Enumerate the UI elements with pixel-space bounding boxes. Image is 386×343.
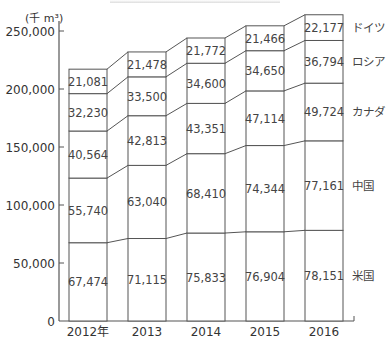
legend-label-russia: ロシア xyxy=(352,55,385,69)
x-tick-label: 2016 xyxy=(309,325,340,339)
connector-line xyxy=(225,26,246,38)
value-label: 34,650 xyxy=(245,64,285,78)
x-tick-label: 2015 xyxy=(250,325,281,339)
connector-line xyxy=(284,230,305,231)
value-label: 75,833 xyxy=(186,271,226,285)
value-label: 21,466 xyxy=(245,32,285,46)
value-label: 22,177 xyxy=(304,21,344,35)
y-tick-label: 100,000 xyxy=(5,199,55,213)
value-label: 34,600 xyxy=(186,77,226,91)
value-label: 43,351 xyxy=(186,122,226,136)
connector-line xyxy=(284,40,305,50)
connector-line xyxy=(225,91,246,103)
legend-label-canada: カナダ xyxy=(352,105,386,119)
y-tick-label: 50,000 xyxy=(13,257,55,271)
value-label: 78,151 xyxy=(304,269,344,283)
connector-line xyxy=(166,233,187,238)
value-label: 55,740 xyxy=(68,204,108,218)
connector-line xyxy=(225,232,246,233)
y-tick-label: 0 xyxy=(47,315,55,329)
connector-line xyxy=(284,83,305,91)
connector-line xyxy=(225,146,246,154)
connector-line xyxy=(225,51,246,64)
value-label: 67,474 xyxy=(68,275,108,289)
value-label: 33,500 xyxy=(127,90,167,104)
connector-line xyxy=(107,77,128,94)
x-tick-label: 2014 xyxy=(191,325,222,339)
value-label: 74,344 xyxy=(245,182,285,196)
value-label: 77,161 xyxy=(304,179,344,193)
legend-label-usa: 米国 xyxy=(352,269,374,283)
connector-line xyxy=(284,15,305,26)
connector-line xyxy=(107,52,128,69)
x-tick-label: 2013 xyxy=(132,325,163,339)
connector-line xyxy=(107,165,128,178)
y-tick-label: 250,000 xyxy=(5,25,55,39)
connector-line xyxy=(284,141,305,146)
stacked-bar-chart: (千 m³)050,000100,000150,000200,000250,00… xyxy=(0,0,386,343)
legend-label-china: 中国 xyxy=(352,179,374,193)
x-tick-label: 2012年 xyxy=(67,325,110,339)
value-label: 21,478 xyxy=(127,58,167,72)
legend-label-germany: ドイツ xyxy=(352,21,385,35)
y-tick-label: 150,000 xyxy=(5,141,55,155)
y-tick-label: 200,000 xyxy=(5,83,55,97)
connector-line xyxy=(166,38,187,52)
value-label: 71,115 xyxy=(127,273,167,287)
value-label: 32,230 xyxy=(68,106,108,120)
value-label: 21,772 xyxy=(186,44,226,58)
value-label: 49,724 xyxy=(304,105,344,119)
value-label: 42,813 xyxy=(127,134,167,148)
value-label: 36,794 xyxy=(304,55,344,69)
value-label: 63,040 xyxy=(127,195,167,209)
value-label: 76,904 xyxy=(245,270,285,284)
value-label: 40,564 xyxy=(68,148,108,162)
connector-line xyxy=(166,154,187,166)
connector-line xyxy=(166,63,187,77)
connector-line xyxy=(107,239,128,243)
value-label: 47,114 xyxy=(245,112,285,126)
connector-line xyxy=(166,103,187,115)
value-label: 21,081 xyxy=(68,75,108,89)
y-axis-unit-label: (千 m³) xyxy=(25,12,63,25)
connector-line xyxy=(107,116,128,131)
value-label: 68,410 xyxy=(186,187,226,201)
